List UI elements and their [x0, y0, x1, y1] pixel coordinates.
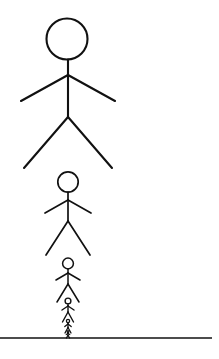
- drawing-canvas: [0, 0, 219, 359]
- stick-figure-fourth: [62, 298, 74, 322]
- head-circle: [65, 298, 71, 304]
- head-circle: [47, 19, 88, 60]
- stick-figure-scene: [0, 0, 219, 359]
- right-leg-segment: [68, 117, 112, 168]
- left-arm-segment: [62, 306, 68, 310]
- left-leg-segment: [46, 221, 68, 255]
- left-arm-segment: [45, 200, 68, 213]
- stick-figure-largest: [21, 19, 115, 169]
- left-leg-segment: [24, 117, 68, 168]
- left-arm-segment: [21, 75, 68, 101]
- stick-figure-third: [56, 258, 80, 302]
- head-circle: [58, 172, 78, 192]
- stick-figure-smallest: [66, 331, 70, 338]
- right-arm-segment: [68, 200, 91, 213]
- figures-layer: [21, 19, 115, 339]
- head-circle: [63, 258, 74, 269]
- right-arm-segment: [68, 306, 74, 310]
- right-arm-segment: [68, 75, 115, 101]
- left-arm-segment: [56, 273, 68, 280]
- right-leg-segment: [68, 221, 90, 255]
- right-arm-segment: [68, 273, 80, 280]
- stick-figure-second: [45, 172, 91, 255]
